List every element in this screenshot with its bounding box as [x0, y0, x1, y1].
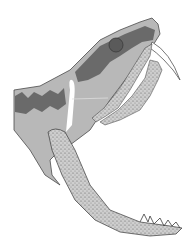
- lower-jaw: [48, 129, 182, 236]
- skull-illustration: [0, 0, 196, 243]
- eye-orbit: [109, 38, 123, 52]
